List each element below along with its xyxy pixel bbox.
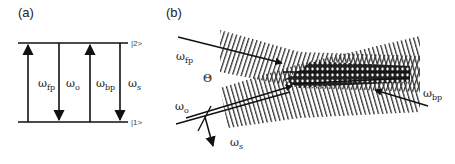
label-omega-bp: ωbp <box>96 77 115 92</box>
energy-level-and-beam-diagram: (a) |2> |1> ωfp ωo ωbp ωs (b) ωfp Θ ω <box>0 0 455 164</box>
beam-label-s: ωs <box>230 136 243 151</box>
panel-b: (b) ωfp Θ ωo ωs ωbp <box>166 5 442 151</box>
beam-label-o: ωo <box>175 100 189 115</box>
panel-b-label: (b) <box>166 5 182 20</box>
panel-a-label: (a) <box>18 5 34 20</box>
upper-level-label: |2> <box>131 39 143 48</box>
lower-level-label: |1> <box>131 118 143 127</box>
panel-a: (a) |2> |1> ωfp ωo ωbp ωs <box>18 5 143 127</box>
label-omega-fp: ωfp <box>38 77 55 92</box>
beam-label-fp: ωfp <box>176 50 193 65</box>
mirror-line <box>198 106 211 131</box>
beam-arrow-s <box>205 117 213 146</box>
angle-theta-label: Θ <box>203 72 212 85</box>
beam-label-bp: ωbp <box>423 87 442 102</box>
label-omega-s: ωs <box>128 77 141 92</box>
label-omega-o: ωo <box>66 77 80 92</box>
